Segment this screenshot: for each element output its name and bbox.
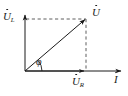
inductor-voltage-label: UL [3,11,15,22]
resultant-voltage-vector [25,20,85,72]
resistor-voltage-label: UR [72,76,84,87]
phasor-diagram: UL U UR I φ [0,0,128,96]
current-label: I [114,74,118,85]
phase-angle-label: φ [36,57,42,67]
total-voltage-label: U [92,7,100,18]
phasor-diagram-canvas [0,0,128,96]
